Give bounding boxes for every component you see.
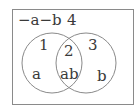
left-region-label: a [32, 67, 41, 82]
right-region-number: 3 [88, 38, 98, 53]
left-region-number: 1 [39, 38, 49, 53]
universe-label: −a−b [18, 13, 62, 28]
intersection-region-label: ab [60, 67, 79, 82]
right-region-label: b [97, 69, 107, 84]
universe-region-number: 4 [67, 13, 77, 28]
intersection-region-number: 2 [64, 44, 74, 59]
